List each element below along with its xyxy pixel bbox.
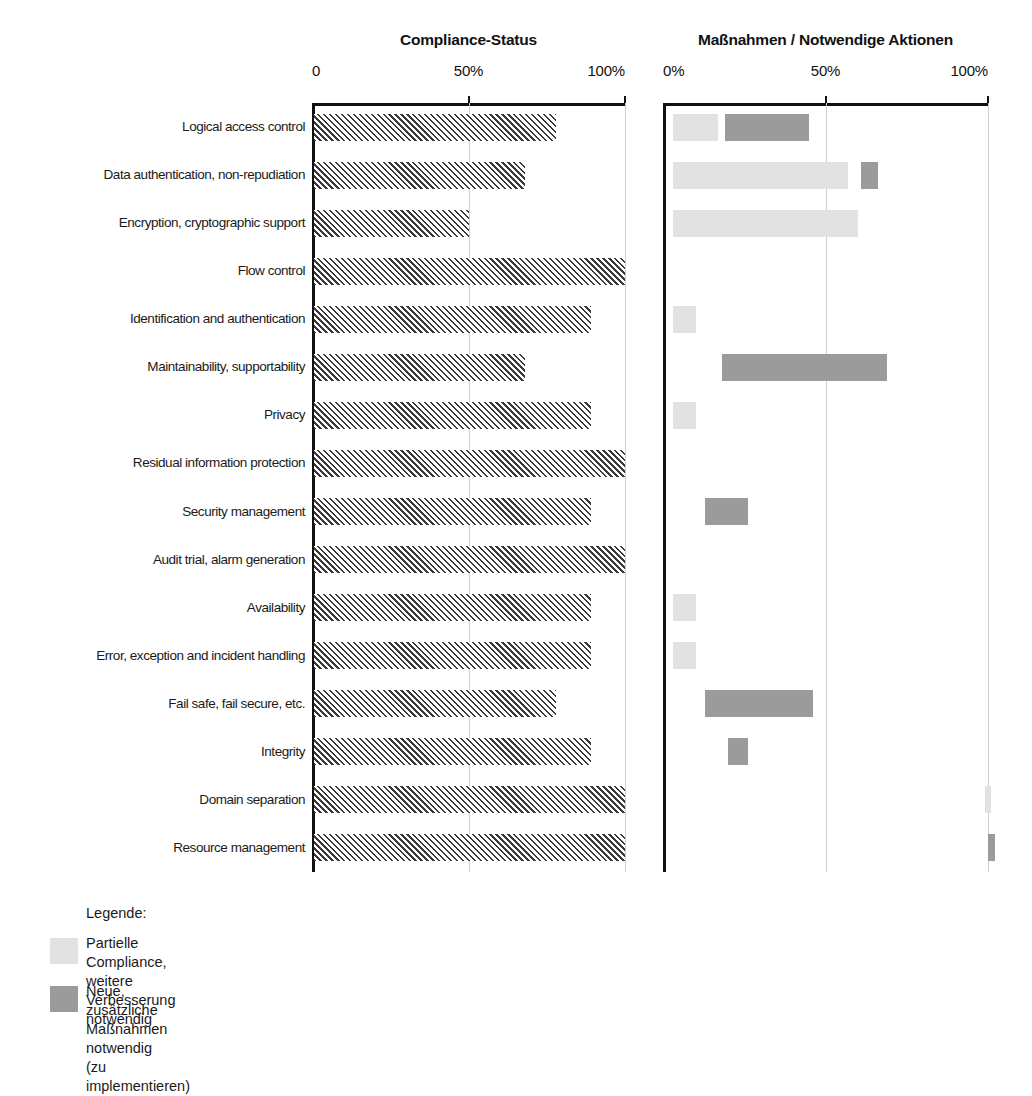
panel-title-compliance: Compliance-Status [312,31,625,49]
bar-compliance [314,498,591,525]
legend-label-new-measures: Neue, zusätzliche Maßnahmen notwendig (z… [86,982,190,1096]
category-label: Logical access control [15,119,305,135]
bar-partial-compliance [673,642,696,669]
bar-compliance [314,450,625,477]
bar-partial-compliance [985,786,992,813]
x-tick-label: 50% [811,62,840,79]
x-tick-label: 0 [312,62,320,79]
bar-new-measures [722,354,888,381]
plot-area-compliance [312,103,625,872]
bar-compliance [314,114,556,141]
category-label: Residual information protection [15,455,305,471]
category-label: Resource management [15,840,305,856]
bar-compliance [314,546,625,573]
bar-compliance [314,162,525,189]
category-label: Integrity [15,744,305,760]
category-label: Identification and authentication [15,311,305,327]
bar-partial-compliance [673,162,849,189]
category-label: Maintainability, supportability [15,359,305,375]
panel-title-massnahmen: Maßnahmen / Notwendige Aktionen [663,31,988,49]
category-label: Flow control [15,263,305,279]
bar-partial-compliance [673,594,696,621]
bar-new-measures [728,738,748,765]
category-label: Fail safe, fail secure, etc. [15,696,305,712]
bar-compliance [314,258,625,285]
x-tick-label: 100% [950,62,988,79]
category-label: Encryption, cryptographic support [15,215,305,231]
plot-area-massnahmen [663,103,988,872]
bar-new-measures [988,834,995,861]
bar-partial-compliance [673,306,696,333]
legend-swatch-partial-compliance [50,938,78,964]
bar-new-measures [705,498,747,525]
bar-compliance [314,786,625,813]
legend-swatch-new-measures [50,986,78,1012]
x-tick-label: 50% [454,62,483,79]
bar-compliance [314,642,591,669]
category-label: Audit trial, alarm generation [15,552,305,568]
bar-compliance [314,354,525,381]
category-label: Privacy [15,407,305,423]
bar-compliance [314,834,625,861]
category-label: Domain separation [15,792,305,808]
bar-partial-compliance [673,402,696,429]
bar-compliance [314,594,591,621]
bar-compliance [314,210,469,237]
category-label: Availability [15,600,305,616]
bar-compliance [314,402,591,429]
bar-new-measures [725,114,810,141]
bar-compliance [314,738,591,765]
y-axis-line-massnahmen [663,103,666,872]
gridline [625,103,626,872]
gridline [988,103,989,872]
category-label: Error, exception and incident handling [15,648,305,664]
bar-compliance [314,690,556,717]
bar-new-measures [705,690,812,717]
category-label: Data authentication, non-repudiation [15,167,305,183]
bar-new-measures [861,162,877,189]
legend-title: Legende: [86,905,146,921]
bar-partial-compliance [673,114,719,141]
x-tick-label: 0% [663,62,684,79]
y-axis-category-labels: Logical access controlData authenticatio… [10,103,305,872]
category-label: Security management [15,504,305,520]
bar-partial-compliance [673,210,858,237]
x-tick-label: 100% [587,62,625,79]
bar-compliance [314,306,591,333]
